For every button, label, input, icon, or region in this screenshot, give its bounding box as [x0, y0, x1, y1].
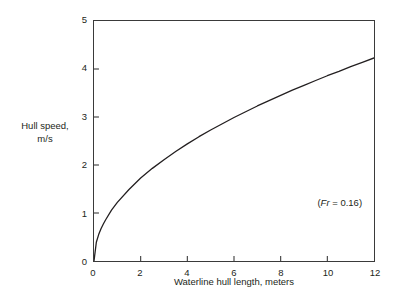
x-tick-label: 6 [231, 268, 236, 278]
y-tick-label: 3 [82, 112, 87, 122]
x-tick-label: 8 [278, 268, 283, 278]
y-tick-label: 1 [82, 209, 87, 219]
plot-area [93, 20, 375, 262]
annotation-symbol: Fr [321, 196, 330, 207]
y-axis-title: Hull speed, m/s [21, 120, 69, 146]
x-tick-label: 2 [137, 268, 142, 278]
x-tick-label: 12 [370, 268, 381, 278]
froude-number-annotation: (Fr = 0.16) [317, 196, 362, 207]
y-tick-label: 0 [82, 257, 87, 267]
x-tick-label: 4 [184, 268, 189, 278]
y-axis-title-line1: Hull speed, [21, 120, 69, 133]
annotation-suffix: = 0.16) [330, 196, 362, 207]
x-tick-label: 0 [90, 268, 95, 278]
x-tick-label: 10 [323, 268, 334, 278]
tick-marks [94, 69, 327, 261]
y-tick-label: 4 [82, 64, 87, 74]
y-tick-label: 5 [82, 15, 87, 25]
plot-canvas [94, 21, 374, 261]
chart-figure: Hull speed, m/s Waterline hull length, m… [0, 0, 403, 301]
hull-speed-curve [94, 58, 374, 261]
y-tick-label: 2 [82, 160, 87, 170]
y-axis-title-line2: m/s [21, 133, 69, 146]
